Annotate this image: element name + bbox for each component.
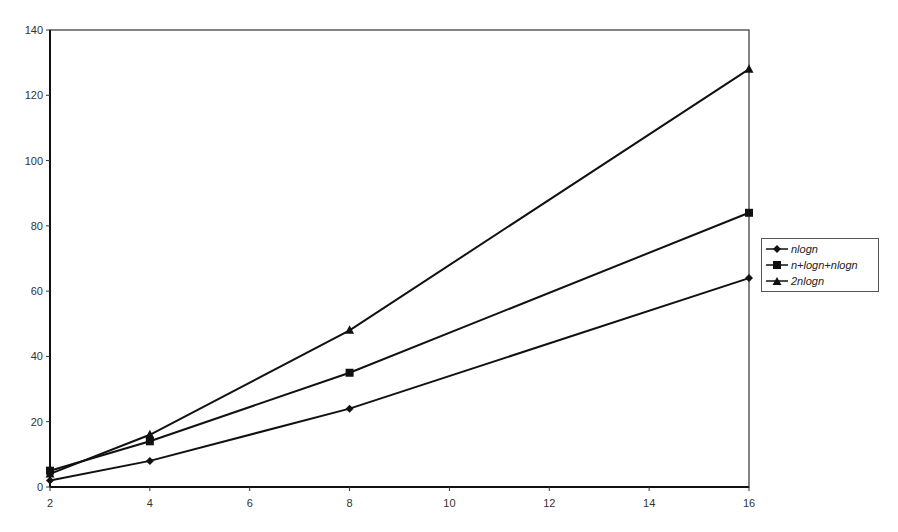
x-tick-label: 8 — [347, 497, 353, 509]
legend-item-nlogn: nlogn — [766, 241, 874, 257]
x-tick-label: 6 — [247, 497, 253, 509]
square-marker-icon — [146, 437, 154, 445]
x-tick-label: 14 — [643, 497, 655, 509]
x-tick-label: 10 — [443, 497, 455, 509]
legend-item-n-plus-logn-plus-nlogn: n+logn+nlogn — [766, 257, 874, 273]
legend-label: nlogn — [791, 243, 818, 255]
legend: nlogn n+logn+nlogn 2nlogn — [761, 238, 879, 292]
y-tick-label: 100 — [25, 155, 43, 167]
plot-border — [50, 30, 749, 487]
y-tick-label: 60 — [31, 285, 43, 297]
square-marker-icon — [745, 209, 753, 217]
x-tick-label: 4 — [147, 497, 153, 509]
legend-label: n+logn+nlogn — [791, 259, 858, 271]
plot-area — [50, 30, 749, 487]
y-tick-label: 80 — [31, 220, 43, 232]
x-tick-label: 16 — [743, 497, 755, 509]
square-marker-icon — [346, 369, 354, 377]
y-tick-label: 20 — [31, 416, 43, 428]
legend-item-2nlogn: 2nlogn — [766, 273, 874, 289]
y-axis: 020406080100120140 — [25, 24, 50, 493]
triangle-marker-icon — [766, 276, 788, 286]
y-tick-label: 140 — [25, 24, 43, 36]
x-tick-label: 12 — [543, 497, 555, 509]
legend-label: 2nlogn — [791, 275, 824, 287]
y-tick-label: 40 — [31, 350, 43, 362]
y-tick-label: 0 — [37, 481, 43, 493]
y-tick-label: 120 — [25, 89, 43, 101]
square-marker-icon — [766, 260, 788, 270]
x-tick-label: 2 — [47, 497, 53, 509]
diamond-marker-icon — [766, 244, 788, 254]
x-axis: 246810121416 — [47, 487, 755, 509]
